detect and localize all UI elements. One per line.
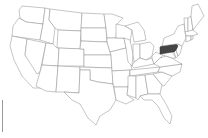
state-kansas[interactable]: Kansas — [84, 55, 112, 68]
state-florida[interactable]: Florida — [140, 94, 172, 124]
state-maine[interactable]: Maine — [191, 4, 204, 30]
state-wyoming[interactable]: Wyoming — [57, 30, 81, 49]
state-nebraska[interactable]: Nebraska — [80, 41, 111, 55]
left-edge-divider — [2, 100, 3, 132]
state-connecticut[interactable]: Connecticut — [186, 36, 191, 42]
state-colorado[interactable]: Colorado — [58, 48, 84, 66]
state-south-dakota[interactable]: South Dakota — [81, 28, 107, 42]
state-rhode-island[interactable]: Rhode Island — [191, 36, 193, 40]
state-new-mexico[interactable]: New Mexico — [56, 66, 80, 93]
state-arkansas[interactable]: Arkansas — [112, 70, 130, 87]
state-vermont[interactable]: Vermont — [184, 18, 188, 32]
state-mississippi[interactable]: Mississippi — [127, 76, 136, 98]
state-north-dakota[interactable]: North Dakota — [81, 13, 106, 28]
us-map: WashingtonOregonCaliforniaNevadaIdahoMon… — [0, 0, 208, 138]
state-new-york[interactable]: New York — [162, 24, 186, 46]
